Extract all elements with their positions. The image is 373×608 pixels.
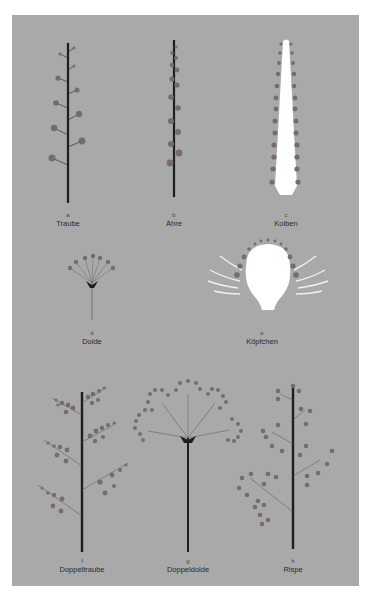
caption-f: f Doppeltraube xyxy=(27,557,137,575)
caption-d: d Dolde xyxy=(37,329,147,347)
umbel-illustration xyxy=(68,254,115,320)
caption-b: b Ähre xyxy=(119,211,229,229)
caption-letter: f xyxy=(27,557,137,565)
panicle-illustration xyxy=(237,384,335,549)
caption-e: e Köpfchen xyxy=(207,329,317,347)
caption-letter: e xyxy=(207,329,317,337)
caption-letter: h xyxy=(238,557,348,565)
caption-name: Doppeldolde xyxy=(133,565,243,575)
spadix-illustration xyxy=(269,40,300,196)
caption-name: Doppeltraube xyxy=(27,565,137,575)
capitulum-illustration xyxy=(208,239,328,310)
caption-letter: d xyxy=(37,329,147,337)
caption-g: g Doppeldolde xyxy=(133,557,243,575)
caption-name: Köpfchen xyxy=(207,337,317,347)
caption-a: a Traube xyxy=(13,211,123,229)
caption-c: c Kolben xyxy=(231,211,341,229)
caption-letter: a xyxy=(13,211,123,219)
caption-name: Traube xyxy=(13,219,123,229)
caption-name: Ähre xyxy=(119,219,229,229)
caption-letter: b xyxy=(119,211,229,219)
caption-name: Kolben xyxy=(231,219,341,229)
compound-raceme-illustration xyxy=(38,387,128,553)
caption-name: Dolde xyxy=(37,337,147,347)
spike-illustration xyxy=(167,40,183,197)
raceme-illustration xyxy=(49,43,86,203)
caption-letter: c xyxy=(231,211,341,219)
compound-umbel-illustration xyxy=(133,379,243,552)
inflorescence-diagram xyxy=(0,0,373,608)
caption-name: Rispe xyxy=(238,565,348,575)
caption-letter: g xyxy=(133,557,243,565)
caption-h: h Rispe xyxy=(238,557,348,575)
